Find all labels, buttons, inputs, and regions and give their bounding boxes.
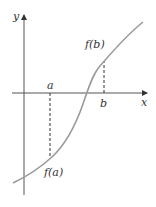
y-axis-label: y [12, 10, 20, 23]
fa-label: f(a) [43, 166, 63, 179]
fb-label-arg: (b) [89, 38, 105, 51]
fb-label: f(b) [84, 38, 105, 51]
ivt-graph: y x a b f(b) f(a) [0, 0, 156, 207]
point-a-label: a [47, 79, 54, 92]
fa-label-arg: (a) [48, 166, 63, 179]
point-b-label: b [100, 97, 107, 110]
function-curve [13, 22, 143, 183]
x-axis-label: x [141, 96, 148, 109]
